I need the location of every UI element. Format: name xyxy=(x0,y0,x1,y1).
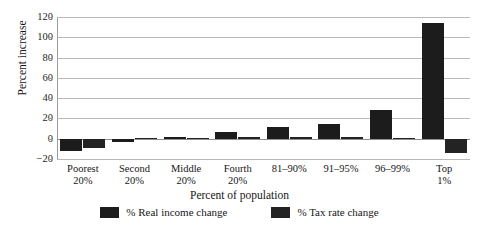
bar-income xyxy=(164,137,186,139)
bar-tax xyxy=(135,138,157,140)
y-axis-tick-mark xyxy=(48,159,53,160)
y-axis-tick-label: 80 xyxy=(9,53,53,63)
y-axis-tick-mark xyxy=(48,17,53,18)
gridline xyxy=(57,159,470,160)
x-axis-tick-line: 1% xyxy=(404,175,479,187)
gridline xyxy=(57,58,470,59)
legend-item: % Real income change xyxy=(100,206,227,218)
bar-tax xyxy=(393,138,415,140)
y-axis-tick-mark xyxy=(48,78,53,79)
y-axis-ticks: −20020406080100120 xyxy=(0,17,53,159)
y-axis-tick-label: 60 xyxy=(9,73,53,83)
y-axis-tick-mark xyxy=(48,139,53,140)
bar-tax xyxy=(187,138,209,140)
bar-tax xyxy=(341,137,363,139)
x-axis-title: Percent of population xyxy=(0,189,479,201)
gridline xyxy=(57,37,470,38)
x-axis-tick-line: 20% xyxy=(198,175,278,187)
x-axis-tick-label: Top1% xyxy=(404,163,479,187)
gridline xyxy=(57,118,470,119)
legend-label: % Real income change xyxy=(126,206,227,218)
y-axis-tick-label: 120 xyxy=(9,12,53,22)
legend-item: % Tax rate change xyxy=(271,206,378,218)
legend-label: % Tax rate change xyxy=(297,206,378,218)
plot-area xyxy=(57,17,470,159)
legend-swatch xyxy=(271,207,290,218)
bar-income xyxy=(422,23,444,139)
gridline xyxy=(57,98,470,99)
bar-tax xyxy=(445,139,467,153)
y-axis-tick-label: 0 xyxy=(9,134,53,144)
bar-income xyxy=(318,124,340,139)
gridline xyxy=(57,17,470,18)
legend-swatch xyxy=(100,207,119,218)
y-axis-tick-mark xyxy=(48,37,53,38)
y-axis-tick-label: 100 xyxy=(9,32,53,42)
y-axis-tick-label: 40 xyxy=(9,93,53,103)
x-axis-tick-line: Top xyxy=(404,163,479,175)
gridline xyxy=(57,78,470,79)
bar-income xyxy=(370,110,392,138)
bar-tax xyxy=(238,137,260,139)
bar-tax xyxy=(290,137,312,139)
bar-income xyxy=(215,132,237,139)
bar-income xyxy=(267,127,289,139)
y-axis-tick-label: 20 xyxy=(9,113,53,123)
y-axis-tick-mark xyxy=(48,58,53,59)
bar-tax xyxy=(83,139,105,148)
y-axis-tick-mark xyxy=(48,118,53,119)
chart-legend: % Real income change% Tax rate change xyxy=(0,206,479,218)
chart-container: Percent increase −20020406080100120 Poor… xyxy=(0,0,479,232)
bar-income xyxy=(60,139,82,151)
y-axis-tick-mark xyxy=(48,98,53,99)
bar-income xyxy=(112,139,134,142)
